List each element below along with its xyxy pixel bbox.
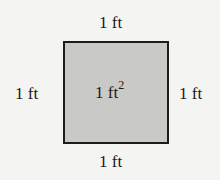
area-value: 1 ft [95, 83, 118, 102]
area-label: 1 ft2 [95, 84, 124, 101]
left-side-label: 1 ft [15, 85, 38, 102]
bottom-side-label: 1 ft [99, 153, 122, 170]
area-exponent: 2 [118, 78, 124, 92]
right-side-label: 1 ft [179, 85, 202, 102]
top-side-label: 1 ft [99, 14, 122, 31]
